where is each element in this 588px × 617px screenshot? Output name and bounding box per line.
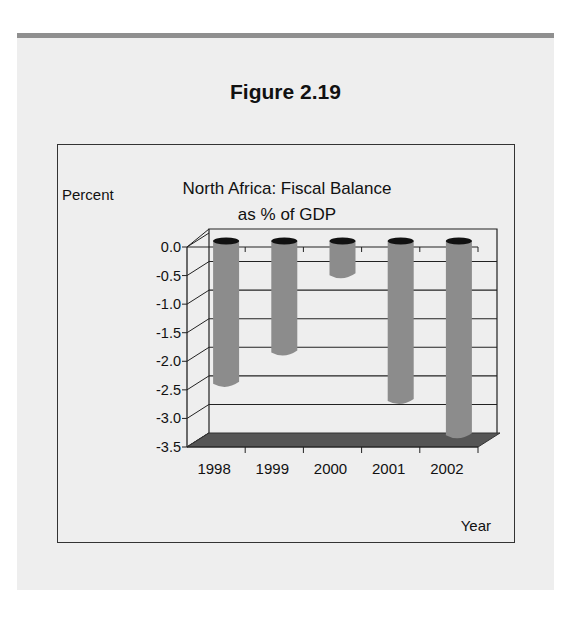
bar-cap-icon <box>330 238 356 245</box>
bar-1999 <box>271 241 297 355</box>
x-tick-label: 2001 <box>372 460 405 477</box>
x-tick-label: 1999 <box>256 460 289 477</box>
bar-2001 <box>388 241 414 404</box>
y-tick-label: -1.5 <box>156 325 181 341</box>
y-tick-label: -2.5 <box>156 382 181 398</box>
y-tick-label: -2.0 <box>156 353 181 369</box>
bar-cap-icon <box>388 238 414 245</box>
gridline-diag <box>187 404 209 418</box>
y-tick-label: -3.0 <box>156 410 181 426</box>
bar-cap-icon <box>213 238 239 245</box>
y-axis-label: Percent <box>62 186 115 203</box>
y-tick-label: -3.5 <box>156 439 181 455</box>
x-tick-label: 2000 <box>314 460 347 477</box>
chart-title-line: North Africa: Fiscal Balance <box>183 179 392 198</box>
y-tick-label: -1.0 <box>156 296 181 312</box>
gridline-diag <box>187 347 209 361</box>
gridline-diag <box>187 376 209 390</box>
bar-1998 <box>213 241 239 387</box>
gridline-diag <box>187 290 209 304</box>
bar-cap-icon <box>446 238 472 245</box>
x-tick-label: 2002 <box>430 460 463 477</box>
x-axis-label: Year <box>461 517 491 534</box>
y-tick-label: 0.0 <box>161 239 181 255</box>
wall-edge <box>187 229 209 247</box>
bar-2002 <box>446 241 472 438</box>
gridline-diag <box>187 262 209 276</box>
bar-cap-icon <box>271 238 297 245</box>
y-tick-label: -0.5 <box>156 268 181 284</box>
chart-title-line: as % of GDP <box>238 205 336 224</box>
gridline-diag <box>187 233 209 247</box>
bar-2000 <box>330 241 356 278</box>
gridline-diag <box>187 319 209 333</box>
x-tick-label: 1998 <box>197 460 230 477</box>
chart-plot: North Africa: Fiscal Balanceas % of GDPP… <box>0 0 588 617</box>
